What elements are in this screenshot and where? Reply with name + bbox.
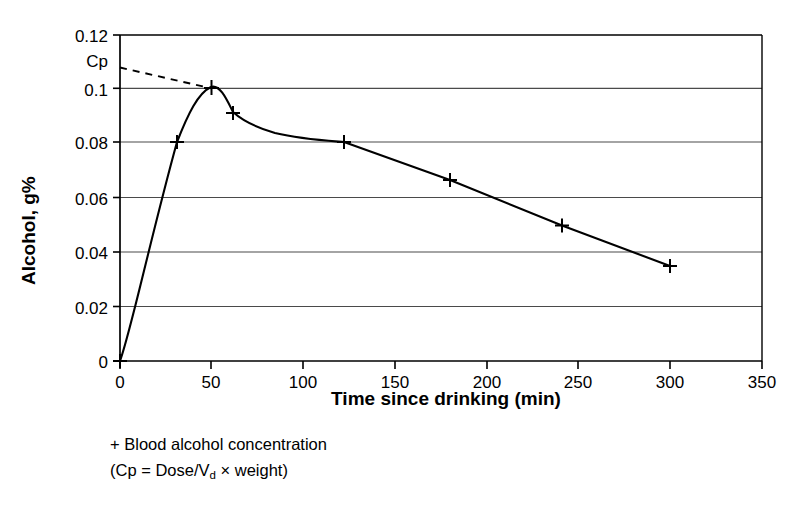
y-tick-label: 0 xyxy=(99,353,108,372)
chart-legend: + Blood alcohol concentration (Cp = Dose… xyxy=(110,432,327,483)
legend-entry-blood-alcohol: + Blood alcohol concentration xyxy=(110,432,327,458)
x-axis-title: Time since drinking (min) xyxy=(236,388,656,410)
y-axis-title-wrapper: Alcohol, g% xyxy=(10,100,50,300)
y-tick-label: 0.1 xyxy=(84,81,108,100)
y-tick-labels: 0.12 0.1 0.08 0.06 0.04 0.02 0 xyxy=(75,27,108,372)
legend-note-subscript: d xyxy=(210,469,216,481)
cp-annotation-label: Cp xyxy=(86,52,108,71)
legend-note: (Cp = Dose/Vd × weight) xyxy=(110,458,327,484)
y-axis-ticks xyxy=(113,35,120,361)
chart-figure: 0.12 0.1 0.08 0.06 0.04 0.02 0 Cp 0 50 1… xyxy=(0,0,807,509)
y-tick-label: 0.12 xyxy=(75,27,108,46)
y-tick-label: 0.08 xyxy=(75,134,108,153)
x-tick-label: 0 xyxy=(115,373,124,392)
y-tick-label: 0.02 xyxy=(75,299,108,318)
y-tick-label: 0.04 xyxy=(75,244,108,263)
y-axis-title: Alcohol, g% xyxy=(18,176,40,285)
legend-note-suffix: × weight) xyxy=(216,461,288,479)
x-tick-label: 350 xyxy=(748,373,776,392)
x-tick-label: 300 xyxy=(656,373,684,392)
y-tick-label: 0.06 xyxy=(75,190,108,209)
x-tick-label: 50 xyxy=(202,373,221,392)
legend-note-prefix: (Cp = Dose/V xyxy=(110,461,210,479)
x-axis-ticks xyxy=(120,361,762,369)
